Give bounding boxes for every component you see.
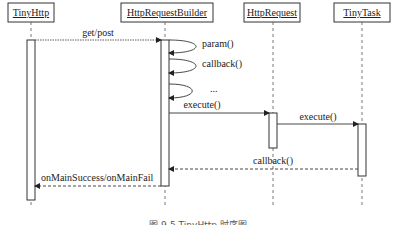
activation-httprequest xyxy=(269,113,277,148)
participant-label: TinyTask xyxy=(343,7,380,18)
participant-label: HttpRequest xyxy=(247,7,297,18)
participant-tinytask: TinyTask xyxy=(334,3,390,22)
activation-tinytask xyxy=(358,124,366,176)
participant-httprequest: HttpRequest xyxy=(244,3,300,22)
participant-label: TinyHttp xyxy=(13,7,49,18)
message-callback-return: callback() xyxy=(169,155,358,169)
message-onmain-return: onMainSuccess/onMainFail xyxy=(35,172,161,186)
message-param: param() xyxy=(169,38,234,53)
participant-httprequestbuilder: HttpRequestBuilder xyxy=(121,3,213,22)
participant-label: HttpRequestBuilder xyxy=(127,7,208,18)
participant-tinyhttp: TinyHttp xyxy=(8,3,54,22)
activation-httprequestbuilder xyxy=(161,40,169,186)
message-execute-task: execute() xyxy=(277,111,358,124)
message-label: execute() xyxy=(299,111,336,123)
message-label: ... xyxy=(210,83,218,94)
message-label: callback() xyxy=(202,58,242,70)
activation-tinyhttp xyxy=(27,40,35,200)
message-execute-request: execute() xyxy=(169,99,269,113)
sequence-diagram: TinyHttp HttpRequestBuilder HttpRequest … xyxy=(0,0,396,225)
message-get-post: get/post xyxy=(35,27,161,40)
message-label: param() xyxy=(202,38,234,50)
message-callback-self: callback() xyxy=(169,58,242,73)
message-label: execute() xyxy=(183,99,220,111)
message-label: onMainSuccess/onMainFail xyxy=(41,172,153,183)
message-label: callback() xyxy=(253,155,293,167)
figure-caption: 图 9-5 TinyHttp 时序图 xyxy=(149,219,247,225)
message-label: get/post xyxy=(82,27,114,38)
message-ellipsis: ... xyxy=(169,83,218,98)
